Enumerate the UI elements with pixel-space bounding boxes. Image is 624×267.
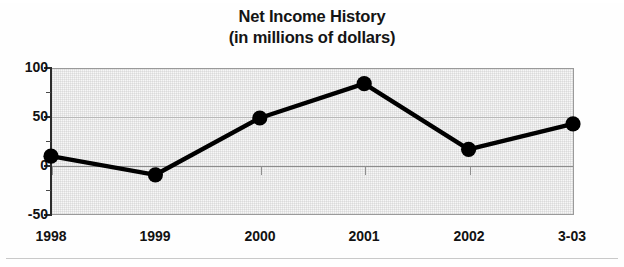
y-axis-labels: 100 50 0 -50	[0, 0, 48, 267]
chart-title-block: Net Income History (in millions of dolla…	[0, 6, 624, 48]
x-tick-3-03	[573, 166, 574, 175]
x-axis-label-1998: 1998	[35, 229, 66, 244]
page-bottom-rule	[6, 258, 618, 259]
zero-axis-line	[52, 166, 573, 167]
x-axis-label-2000: 2000	[244, 229, 275, 244]
x-axis-label-1999: 1999	[139, 229, 170, 244]
y-axis-label-50: 50	[2, 109, 48, 123]
chart-figure: Net Income History (in millions of dolla…	[0, 0, 624, 267]
x-tick-2001	[365, 166, 366, 175]
plot-area	[51, 68, 574, 215]
chart-title: Net Income History	[0, 6, 624, 27]
gridline-y-50	[52, 117, 573, 118]
x-axis-label-2001: 2001	[348, 229, 379, 244]
x-tick-2000	[261, 166, 262, 175]
x-tick-2002	[470, 166, 471, 175]
x-axis-label-2002: 2002	[453, 229, 484, 244]
x-axis-label-3-03: 3-03	[558, 229, 586, 244]
x-tick-1999	[156, 166, 157, 175]
y-axis-label-0: 0	[2, 158, 48, 172]
x-tick-1998	[52, 166, 53, 175]
y-axis-label-neg50: -50	[2, 207, 48, 221]
page-top-edge	[0, 0, 624, 3]
y-axis-label-100: 100	[2, 60, 48, 74]
chart-subtitle: (in millions of dollars)	[0, 27, 624, 48]
